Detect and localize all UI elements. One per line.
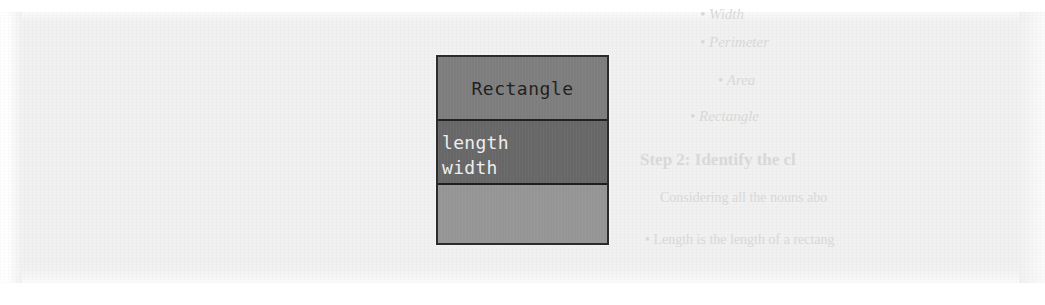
methods-grain — [438, 185, 607, 243]
uml-methods-compartment — [438, 185, 607, 243]
paper-left-edge — [0, 12, 22, 283]
uml-attribute-width: width — [442, 155, 607, 180]
paper-right-edge — [1019, 12, 1045, 283]
uml-class-name-compartment: Rectangle — [438, 57, 607, 121]
paper-top-edge — [0, 12, 1045, 22]
uml-class-box: Rectangle length width — [436, 55, 609, 245]
uml-attribute-length: length — [442, 130, 607, 155]
screenshot-canvas: • Width• Perimeter• Area• RectangleStep … — [0, 0, 1045, 305]
uml-class-name: Rectangle — [471, 78, 573, 99]
paper-bottom-edge — [0, 269, 1045, 283]
uml-attributes-compartment: length width — [438, 121, 607, 185]
